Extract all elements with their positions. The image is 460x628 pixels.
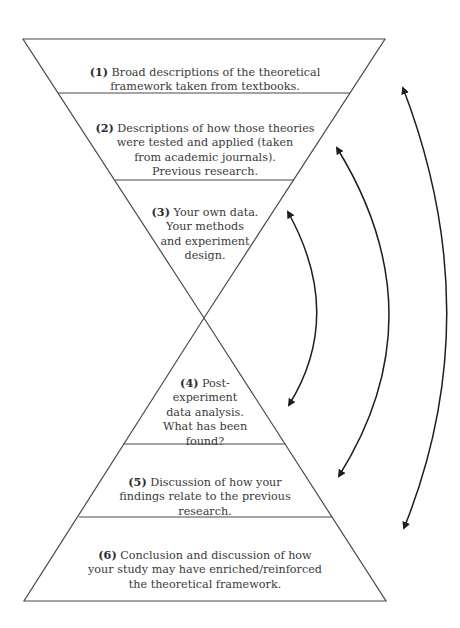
section-5-number: (5)	[128, 475, 146, 489]
section-6-text: Conclusion and discussion of how your st…	[88, 549, 322, 591]
section-5-label: (5) Discussion of how your findings rela…	[100, 460, 310, 519]
section-2-text: Descriptions of how those theories were …	[114, 122, 315, 179]
section-3-label: (3) Your own data. Your methods and expe…	[140, 190, 270, 264]
section-4-number: (4)	[180, 376, 198, 390]
arrow-2-to-5	[337, 148, 389, 476]
hourglass-diagram: (1) Broad descriptions of the theoretica…	[0, 0, 460, 628]
section-2-label: (2) Descriptions of how those theories w…	[80, 106, 330, 180]
section-3-text: Your own data. Your methods and experime…	[160, 206, 258, 263]
section-4-text: Post- experiment data analysis. What has…	[163, 377, 247, 448]
section-1-number: (1)	[90, 65, 108, 79]
section-1-text: Broad descriptions of the theoretical fr…	[108, 66, 320, 94]
section-2-number: (2)	[95, 121, 113, 135]
section-6-number: (6)	[98, 548, 116, 562]
arrow-3-to-4	[288, 212, 317, 405]
arrow-1-to-6	[403, 88, 447, 528]
section-3-number: (3)	[152, 205, 170, 219]
section-1-label: (1) Broad descriptions of the theoretica…	[60, 50, 350, 95]
section-4-label: (4) Post- experiment data analysis. What…	[150, 361, 260, 449]
section-6-label: (6) Conclusion and discussion of how you…	[60, 533, 350, 592]
